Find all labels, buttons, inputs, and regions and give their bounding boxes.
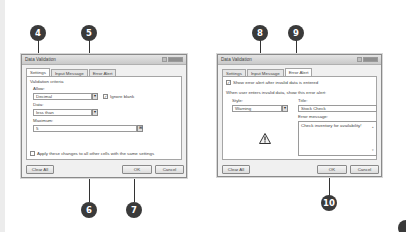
data-validation-dialog-error-alert: Data Validation Settings Input Message E… bbox=[217, 54, 382, 177]
callout-10-leader bbox=[329, 176, 330, 196]
callout-6: 6 bbox=[81, 202, 97, 218]
validation-criteria-label: Validation criteria bbox=[30, 79, 63, 84]
error-message-label: Error message: bbox=[298, 114, 328, 119]
settings-panel: Validation criteria Allow: Decimal ▾ ✓ I… bbox=[26, 76, 182, 160]
instruction-text: When user enters invalid data, show this… bbox=[226, 90, 326, 95]
callout-4: 4 bbox=[30, 25, 46, 41]
cancel-button[interactable]: Cancel bbox=[350, 165, 379, 174]
cancel-button[interactable]: Cancel bbox=[155, 165, 184, 174]
style-label: Style: bbox=[232, 98, 243, 103]
data-select[interactable]: less than bbox=[33, 109, 92, 116]
callout-9: 9 bbox=[288, 25, 304, 41]
textarea-scrollbar[interactable]: ▴ ▾ bbox=[372, 125, 375, 152]
show-error-alert-label: Show error alert after invalid data is e… bbox=[233, 80, 318, 85]
maximum-input[interactable]: 5 bbox=[33, 125, 137, 132]
callout-5: 5 bbox=[81, 25, 97, 41]
data-dropdown-button[interactable]: ▾ bbox=[92, 109, 98, 116]
partial-callout-corner bbox=[398, 220, 406, 232]
clear-all-button[interactable]: Clear All bbox=[26, 165, 54, 174]
ignore-blank-checkbox[interactable]: ✓ bbox=[103, 94, 108, 99]
help-button[interactable] bbox=[357, 57, 362, 62]
callout-10: 10 bbox=[321, 195, 337, 211]
data-validation-dialog-settings: Data Validation Settings Input Message E… bbox=[21, 54, 187, 178]
style-select[interactable]: Warning bbox=[232, 105, 282, 112]
dialog-titlebar: Data Validation bbox=[22, 55, 186, 65]
scroll-down-icon[interactable]: ▾ bbox=[372, 148, 374, 152]
dialog-title: Data Validation bbox=[221, 57, 252, 62]
allow-label: Allow: bbox=[33, 86, 45, 91]
warning-icon bbox=[259, 133, 271, 144]
ignore-blank-label: Ignore blank bbox=[110, 94, 134, 99]
error-message-text: Check inventory for availability! bbox=[301, 123, 362, 128]
allow-dropdown-button[interactable]: ▾ bbox=[92, 93, 98, 100]
title-label: Title: bbox=[298, 98, 307, 103]
ok-button[interactable]: OK bbox=[317, 165, 347, 174]
callout-7: 7 bbox=[126, 202, 142, 218]
scroll-up-icon[interactable]: ▴ bbox=[372, 125, 374, 129]
range-picker-button[interactable]: ⊞ bbox=[137, 125, 143, 132]
maximum-label: Maximum: bbox=[33, 118, 53, 123]
dialog-title: Data Validation bbox=[25, 57, 56, 62]
ok-button[interactable]: OK bbox=[122, 165, 152, 174]
dialog-titlebar: Data Validation bbox=[218, 55, 381, 65]
callout-8: 8 bbox=[252, 25, 268, 41]
error-alert-panel: ✓ Show error alert after invalid data is… bbox=[222, 76, 377, 160]
help-button[interactable] bbox=[162, 57, 167, 62]
apply-changes-checkbox[interactable] bbox=[30, 151, 35, 156]
show-error-alert-checkbox[interactable]: ✓ bbox=[226, 80, 231, 85]
close-button[interactable] bbox=[168, 57, 183, 62]
clear-all-button[interactable]: Clear All bbox=[222, 165, 250, 174]
style-dropdown-button[interactable]: ▾ bbox=[282, 105, 288, 112]
close-button[interactable] bbox=[363, 57, 378, 62]
allow-select[interactable]: Decimal bbox=[33, 93, 92, 100]
data-label: Data: bbox=[33, 102, 44, 107]
error-message-textarea[interactable]: Check inventory for availability! ▴ ▾ bbox=[298, 121, 377, 156]
page-edge-stripe bbox=[0, 0, 5, 232]
title-input[interactable]: Stock Check bbox=[298, 105, 377, 112]
apply-changes-label: Apply these changes to all other cells w… bbox=[37, 151, 154, 156]
